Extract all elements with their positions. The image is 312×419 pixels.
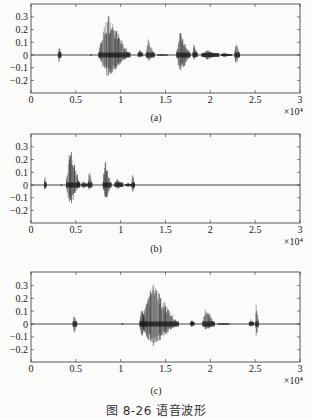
waveform-panel-c: 00.511.522.53×10⁴0.30.20.10−0.1−0.2 (c)	[0, 0, 312, 400]
x-tick-label: 0	[29, 363, 34, 374]
waveform-plot-c: 00.511.522.53×10⁴0.30.20.10−0.1−0.2	[0, 0, 312, 400]
y-tick-label: 0.3	[16, 280, 29, 291]
y-tick-label: −0.1	[10, 331, 28, 342]
x-tick-label: 3	[298, 363, 303, 374]
y-tick-label: −0.2	[10, 344, 28, 355]
waveform-signal	[73, 284, 259, 346]
x-tick-label: 1.5	[159, 363, 172, 374]
y-tick-label: 0.1	[16, 306, 29, 317]
x-tick-label: 1	[118, 363, 123, 374]
figure-caption: 图 8-26 语音波形	[0, 401, 312, 418]
y-tick-label: 0	[23, 319, 28, 330]
y-tick-label: 0.2	[16, 293, 29, 304]
panel-label-c: (c)	[0, 385, 312, 396]
x-tick-label: 2.5	[249, 363, 262, 374]
x-tick-label: 2	[208, 363, 213, 374]
x-tick-label: 0.5	[70, 363, 83, 374]
